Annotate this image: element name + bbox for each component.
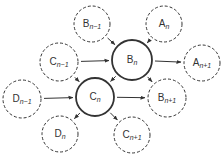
node-B_n+1: Bn+1 [148, 79, 186, 117]
arrow-C_n-1-to-B_n [81, 61, 109, 62]
node-B_n-1: Bn−1 [74, 6, 110, 42]
arrow-D_n-1-to-C_n [44, 98, 73, 99]
node-C_n: Cn [76, 78, 114, 116]
arrow-C_n-1-to-C_n [75, 77, 79, 81]
node-B_n: Bn [112, 40, 152, 80]
node-D_n-1: Dn−1 [3, 80, 41, 118]
nodes-group: Bn−1AnCn−1BnAn+1Dn−1CnBn+1DnCn+1 [3, 6, 220, 153]
arrow-C_n-to-C_n+1 [110, 113, 117, 120]
recurrence-diagram: Bn−1AnCn−1BnAn+1Dn−1CnBn+1DnCn+1 [0, 0, 221, 157]
node-A_n+1: An+1 [184, 45, 220, 81]
arrow-A_n-to-B_n [147, 40, 150, 43]
arrow-B_n-to-C_n [111, 76, 116, 81]
arrow-B_n-1-to-B_n [108, 38, 115, 45]
node-C_n-1: Cn−1 [40, 43, 78, 81]
node-D_n: Dn [42, 116, 78, 152]
arrow-B_n-to-B_n+1 [148, 77, 153, 82]
node-A_n: An [146, 6, 182, 42]
arrow-B_n-to-A_n+1 [155, 61, 181, 62]
arrow-C_n-to-D_n [74, 113, 80, 119]
node-C_n+1: Cn+1 [114, 117, 150, 153]
